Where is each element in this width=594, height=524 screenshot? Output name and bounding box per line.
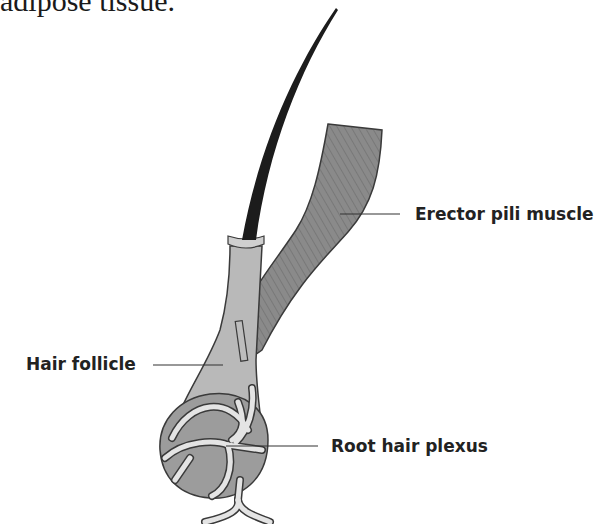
label-root-hair-plexus: Root hair plexus [331, 436, 488, 456]
label-hair-follicle: Hair follicle [26, 354, 136, 374]
label-erector-pili-muscle: Erector pili muscle [415, 204, 594, 224]
